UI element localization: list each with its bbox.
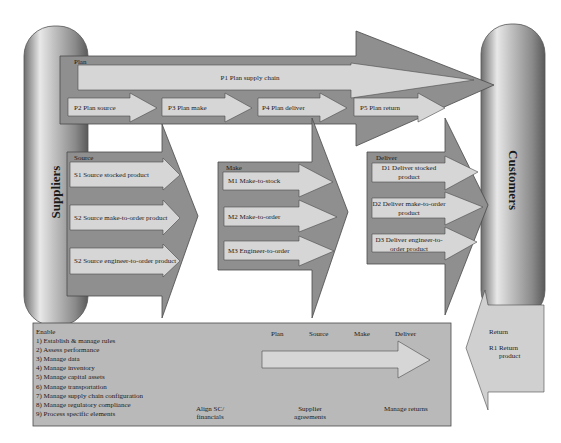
p3-label: P3 Plan make — [168, 104, 207, 112]
enable-item: 8) Manage regulatory compliance — [36, 401, 143, 410]
enable-item: 1) Establish & manage rules — [36, 337, 143, 346]
enable-item: 5) Manage capital assets — [36, 373, 143, 382]
customers-label: Customers — [505, 143, 521, 217]
manage-returns-label: Manage returns — [384, 405, 428, 413]
m3-label: M3 Engineer-to-order — [228, 247, 289, 255]
r1-label-line2: product — [499, 352, 520, 360]
p4-label: P4 Plan deliver — [262, 104, 305, 112]
d2-label-line1: D2 Deliver make-to-order — [372, 200, 446, 208]
r1-label-line1: R1 Return — [489, 344, 518, 352]
s1-label: S1 Source stocked product — [74, 171, 149, 179]
enable-list: Enable 1) Establish & manage rules 2) As… — [36, 328, 143, 419]
align-label-line2: financials — [185, 413, 235, 421]
return-label: Return — [489, 328, 508, 336]
m1-label: M1 Make-to-stock — [228, 177, 280, 185]
d3-label-line1: D3 Deliver engineer-to- — [372, 236, 446, 244]
d3-label-line2: order product — [372, 245, 446, 253]
enable-item: 4) Manage inventory — [36, 364, 143, 373]
source-label: Source — [74, 154, 93, 162]
supplier-label-line1: Supplier — [280, 405, 340, 413]
d1-label-line2: product — [372, 173, 446, 181]
p5-label: P5 Plan return — [360, 104, 400, 112]
p1-label: P1 Plan supply chain — [170, 74, 330, 82]
s3-label: S2 Source engineer-to-order product — [74, 257, 176, 265]
deliver-label: Deliver — [376, 154, 397, 162]
enable-item: 7) Manage supply chain configuration — [36, 392, 143, 401]
p2-label: P2 Plan source — [74, 104, 116, 112]
enable-stage-make: Make — [354, 330, 370, 338]
d1-label-line1: D1 Deliver stocked — [372, 164, 446, 172]
enable-item: 9) Process specific elements — [36, 410, 143, 419]
scor-diagram: Suppliers Customers Plan P1 Plan supply … — [0, 0, 561, 443]
make-label: Make — [226, 164, 242, 172]
supplier-label-line2: agreements — [280, 413, 340, 421]
enable-stage-source: Source — [309, 330, 328, 338]
m2-label: M2 Make-to-order — [228, 213, 280, 221]
enable-item: 2) Assess performance — [36, 346, 143, 355]
plan-label: Plan — [74, 58, 86, 66]
enable-item: 6) Manage transportation — [36, 383, 143, 392]
enable-stage-plan: Plan — [271, 330, 283, 338]
enable-stage-deliver: Deliver — [395, 330, 416, 338]
suppliers-label: Suppliers — [48, 160, 64, 224]
align-label-line1: Align SC/ — [185, 405, 235, 413]
s2-label: S2 Source make-to-order product — [74, 214, 168, 222]
d2-label-line2: product — [372, 209, 446, 217]
enable-item: 3) Manage data — [36, 355, 143, 364]
enable-label: Enable — [36, 328, 143, 337]
